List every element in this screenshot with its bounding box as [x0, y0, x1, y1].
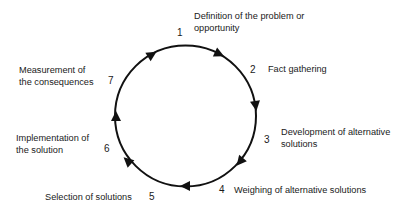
step-6-label: Implementation of the solution: [16, 132, 89, 156]
cycle-circle: [115, 46, 256, 187]
step-7-label-line2: the consequences: [19, 76, 94, 88]
step-2-label-line1: Fact gathering: [268, 63, 327, 75]
step-3-label-line2: solutions: [281, 138, 390, 150]
step-5-number: 5: [149, 191, 155, 203]
step-7-number: 7: [108, 75, 114, 87]
arrow-icon-1-2: [213, 47, 226, 60]
arrow-icon-7-1: [145, 47, 159, 61]
step-5-label: Selection of solutions: [45, 191, 132, 203]
arrow-icon-6-7: [111, 111, 121, 121]
step-7-label: Measurement of the consequences: [19, 64, 94, 88]
step-6-label-line1: Implementation of: [16, 132, 89, 144]
step-4-label: Weighing of alternative solutions: [234, 184, 366, 196]
step-4-number: 4: [219, 184, 225, 196]
step-3-label: Development of alternative solutions: [281, 126, 390, 150]
step-2-number: 2: [250, 64, 256, 76]
step-4-label-line1: Weighing of alternative solutions: [234, 184, 366, 196]
arrow-icon-4-5: [180, 181, 190, 191]
step-1-number: 1: [177, 27, 183, 39]
step-7-label-line1: Measurement of: [19, 64, 94, 76]
step-1-label-line2: opportunity: [194, 22, 304, 34]
step-1-label-line1: Definition of the problem or: [194, 10, 304, 22]
step-3-number: 3: [264, 134, 270, 146]
step-5-label-line1: Selection of solutions: [45, 191, 132, 203]
step-1-label: Definition of the problem or opportunity: [194, 10, 304, 34]
step-3-label-line1: Development of alternative: [281, 126, 390, 138]
step-2-label: Fact gathering: [268, 63, 327, 75]
step-6-number: 6: [104, 143, 110, 155]
step-6-label-line2: the solution: [16, 144, 89, 156]
